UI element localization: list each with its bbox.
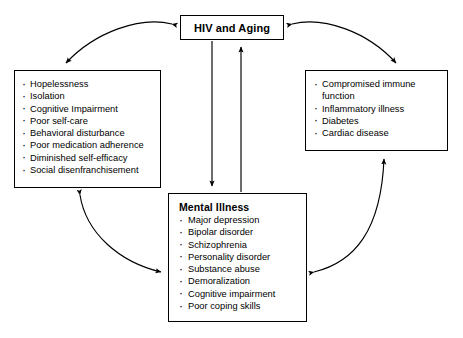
edge-hiv-psychosocial [66, 22, 172, 63]
list-item: Social disenfranchisement [22, 164, 156, 176]
list-item: Compromised immune function [314, 78, 443, 103]
node-mental-illness-title: Mental Illness [179, 201, 302, 213]
mental-illness-item-list: Major depression Bipolar disorder Schizo… [179, 214, 302, 312]
edge-hiv-medical [292, 22, 396, 63]
list-item: Substance abuse [179, 263, 302, 275]
list-item: Inflammatory illness [314, 103, 443, 115]
edge-mental-medical [314, 159, 384, 272]
list-item: Behavioral disturbance [22, 127, 156, 139]
list-item: Hopelessness [22, 78, 156, 90]
edge-psychosocial-mental [80, 195, 161, 272]
list-item: Cognitive impairment [179, 288, 302, 300]
node-mental-illness: Mental Illness Major depression Bipolar … [168, 193, 307, 322]
list-item: Poor self-care [22, 115, 156, 127]
list-item: Bipolar disorder [179, 226, 302, 238]
list-item: Isolation [22, 90, 156, 102]
list-item: Poor medication adherence [22, 139, 156, 151]
list-item: Major depression [179, 214, 302, 226]
psychosocial-item-list: Hopelessness Isolation Cognitive Impairm… [22, 78, 156, 176]
node-hiv-and-aging-title: HIV and Aging [194, 22, 270, 34]
list-item: Diminished self-efficacy [22, 152, 156, 164]
list-item: Diabetes [314, 115, 443, 127]
medical-item-list: Compromised immune function Inflammatory… [314, 78, 443, 139]
node-psychosocial-factors: Hopelessness Isolation Cognitive Impairm… [14, 70, 161, 188]
list-item: Cognitive Impairment [22, 103, 156, 115]
list-item: Demoralization [179, 275, 302, 287]
list-item: Schizophrenia [179, 239, 302, 251]
node-medical-comorbidities: Compromised immune function Inflammatory… [305, 70, 448, 151]
list-item: Personality disorder [179, 251, 302, 263]
list-item: Cardiac disease [314, 127, 443, 139]
node-hiv-and-aging: HIV and Aging [180, 15, 284, 40]
diagram-canvas: HIV and Aging Hopelessness Isolation Cog… [0, 0, 463, 338]
list-item: Poor coping skills [179, 300, 302, 312]
